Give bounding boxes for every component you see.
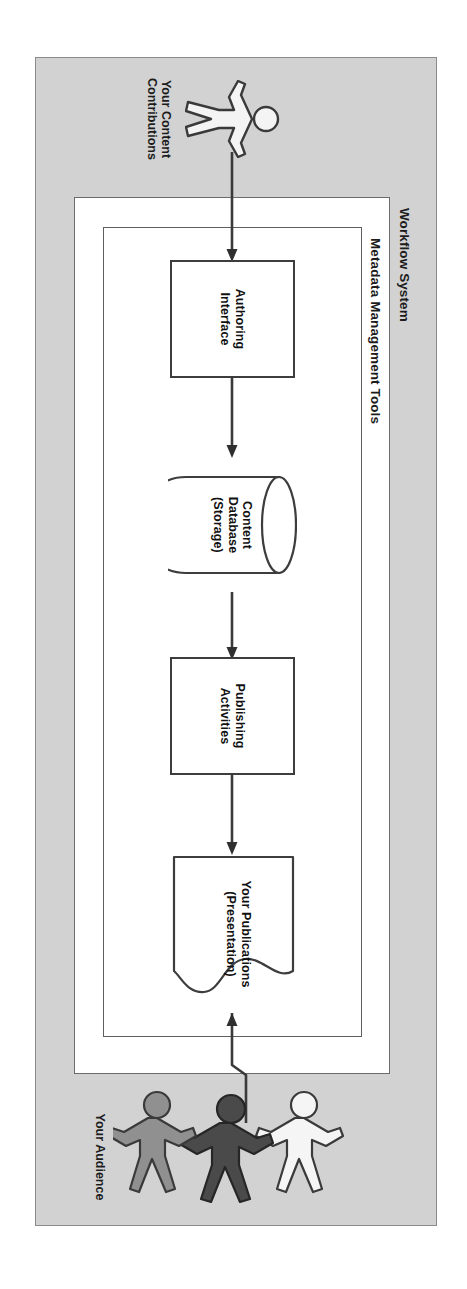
content-contributor-caption-line1: Your Content xyxy=(159,57,173,181)
arrow-database-to-publishing xyxy=(225,592,239,660)
cylinder-shape xyxy=(168,455,297,595)
node-publishing-activities[interactable]: Publishing Activities xyxy=(170,657,295,775)
node-your-publications[interactable]: Your Publications (Presentation) xyxy=(168,851,299,1017)
arrow-authoring-to-database xyxy=(225,376,239,458)
document-shape xyxy=(168,851,299,1017)
audience-caption: Your Audience xyxy=(93,1112,107,1202)
content-contributor-figure xyxy=(185,80,281,158)
arrow-contributor-to-authoring xyxy=(225,152,239,262)
audience-figure-gray xyxy=(113,1092,196,1192)
arrow-publishing-to-publications xyxy=(225,773,239,855)
content-contributor-caption: Your Content Contributions xyxy=(145,57,173,181)
node-authoring-interface-label: Authoring Interface xyxy=(218,262,247,376)
node-publishing-activities-label-line1: Publishing xyxy=(233,684,247,749)
audience-figure-dark xyxy=(178,1095,273,1202)
workflow-system-label: Workflow System xyxy=(397,208,412,322)
node-publishing-activities-label-line2: Activities xyxy=(218,684,232,749)
metadata-management-tools-label: Metadata Management Tools xyxy=(368,238,383,424)
node-publishing-activities-label: Publishing Activities xyxy=(218,684,247,749)
node-content-database[interactable]: Content Database (Storage) xyxy=(168,455,297,595)
audience-figures xyxy=(113,1085,349,1205)
diagram-stage: Workflow System Metadata Management Tool… xyxy=(0,0,467,1289)
node-authoring-interface[interactable]: Authoring Interface xyxy=(170,260,295,378)
content-contributor-caption-line2: Contributions xyxy=(145,57,159,181)
